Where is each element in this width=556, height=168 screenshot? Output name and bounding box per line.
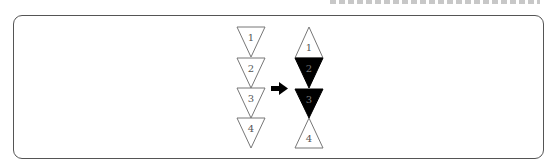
before-triangle-2: 2 xyxy=(237,58,265,88)
before-triangle-3: 3 xyxy=(237,88,265,118)
after-label-3: 3 xyxy=(306,94,312,105)
before-label-1: 1 xyxy=(248,32,254,43)
after-triangle-3: 3 xyxy=(295,89,323,118)
before-column: 1 2 3 4 xyxy=(237,27,265,148)
before-triangle-1: 1 xyxy=(237,27,265,57)
after-label-2: 2 xyxy=(306,63,312,74)
before-label-4: 4 xyxy=(248,123,254,134)
after-triangle-2: 2 xyxy=(295,58,323,88)
after-label-4: 4 xyxy=(306,133,312,144)
before-label-2: 2 xyxy=(248,63,254,74)
after-column: 1 2 3 4 xyxy=(295,27,323,148)
right-arrow-icon xyxy=(271,82,288,95)
after-triangle-4: 4 xyxy=(295,118,323,148)
before-triangle-4: 4 xyxy=(237,118,265,148)
before-label-3: 3 xyxy=(248,93,254,104)
after-triangle-1: 1 xyxy=(295,27,323,58)
triangle-diagram: 1 2 3 4 1 2 3 xyxy=(0,0,556,168)
after-label-1: 1 xyxy=(306,42,312,53)
